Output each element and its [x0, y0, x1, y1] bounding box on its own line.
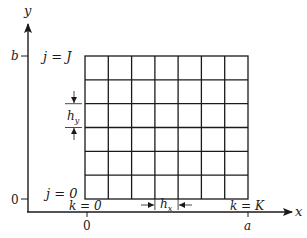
label-k-equals-0: k = 0	[69, 199, 102, 213]
label-k-equals-K: k = K	[230, 199, 265, 213]
x-axis-label: x	[295, 204, 303, 219]
label-j-equals-J: j = J	[40, 49, 72, 64]
y-tick-label-b: b	[11, 49, 19, 63]
hy-dimension-marker: hy	[65, 91, 82, 140]
y-tick-label-0: 0	[11, 193, 19, 207]
x-tick-label-a: a	[244, 219, 251, 233]
hy-label: hy	[67, 109, 80, 125]
y-axis-label: y	[23, 3, 32, 18]
mesh-grid	[85, 56, 248, 199]
finite-difference-grid-diagram: y x b 0 0 a j = J j = 0 k = 0 k = K hy	[0, 0, 307, 238]
x-tick-label-0: 0	[83, 219, 91, 233]
